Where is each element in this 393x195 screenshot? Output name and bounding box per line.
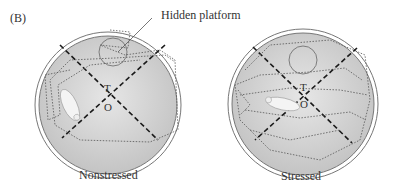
hidden-platform-label: Hidden platform <box>161 8 241 23</box>
caption-stressed: Stressed <box>281 169 321 184</box>
marker-t: T <box>300 81 307 93</box>
caption-nonstressed: Nonstressed <box>79 168 138 183</box>
marker-o: O <box>104 101 112 113</box>
pool-nonstressed <box>35 18 181 178</box>
marker-t: T <box>104 82 111 94</box>
marker-o: O <box>300 98 308 110</box>
water-maze-figure <box>0 0 393 195</box>
panel-label: (B) <box>10 11 26 26</box>
